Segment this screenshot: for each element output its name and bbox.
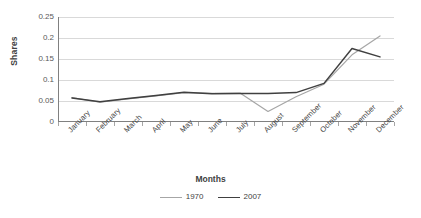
y-tick-label: 0.05: [20, 97, 54, 105]
y-tick-label: 0.25: [20, 13, 54, 21]
y-tick-label: 0.15: [20, 55, 54, 63]
y-tick-label: 0.2: [20, 34, 54, 42]
y-tick-label: 0: [20, 118, 54, 126]
plot-area: [58, 17, 394, 122]
legend-item[interactable]: 2007: [218, 193, 262, 201]
y-axis-title: Shares: [9, 21, 19, 81]
series-line: [72, 49, 380, 102]
chart-legend: 19702007: [0, 193, 421, 201]
series-lines: [58, 17, 394, 122]
y-tick-label: 0.1: [20, 76, 54, 84]
legend-line-icon: [160, 197, 182, 198]
line-chart: Shares 00.050.10.150.20.25 JanuaryFebrua…: [0, 0, 421, 218]
legend-label: 2007: [244, 193, 262, 201]
x-axis-title: Months: [0, 174, 421, 184]
legend-line-icon: [218, 197, 240, 198]
legend-label: 1970: [186, 193, 204, 201]
legend-item[interactable]: 1970: [160, 193, 204, 201]
